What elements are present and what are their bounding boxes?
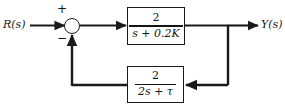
output-signal-label: Y(s) bbox=[261, 19, 283, 30]
forward-numerator: 2 bbox=[127, 12, 185, 26]
summing-junction-minus-sign: − bbox=[57, 32, 67, 44]
input-signal-label: R(s) bbox=[3, 19, 26, 30]
forward-denominator: s + 0.2K bbox=[127, 27, 185, 41]
feedback-numerator: 2 bbox=[133, 70, 178, 84]
summing-junction-plus-sign: + bbox=[57, 3, 67, 15]
forward-path-block: 2 s + 0.2K bbox=[127, 7, 185, 45]
block-diagram: R(s) Y(s) + − 2 s + 0.2K 2 2s + τ bbox=[0, 0, 285, 110]
forward-path-transfer-function: 2 s + 0.2K bbox=[127, 12, 185, 41]
feedback-denominator: 2s + τ bbox=[133, 85, 178, 99]
feedback-path-block: 2 2s + τ bbox=[127, 66, 184, 103]
feedback-path-transfer-function: 2 2s + τ bbox=[133, 70, 178, 99]
